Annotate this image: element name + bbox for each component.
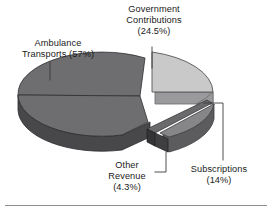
pie-chart-figure: Government Contributions (24.5%) Ambulan… xyxy=(0,0,272,220)
slice-label-ambulance-transports: Ambulance Transports (57%) xyxy=(2,38,114,60)
slice-label-subscriptions: Subscriptions (14%) xyxy=(170,164,268,186)
slice-government-contributions xyxy=(152,52,213,104)
slice-ambulance-transports xyxy=(18,52,150,151)
footer-divider-rule xyxy=(5,205,267,206)
slice-label-other-revenue: Other Revenue (4.3%) xyxy=(96,160,158,194)
slice-label-government-contributions: Government Contributions (24.5%) xyxy=(98,4,210,38)
